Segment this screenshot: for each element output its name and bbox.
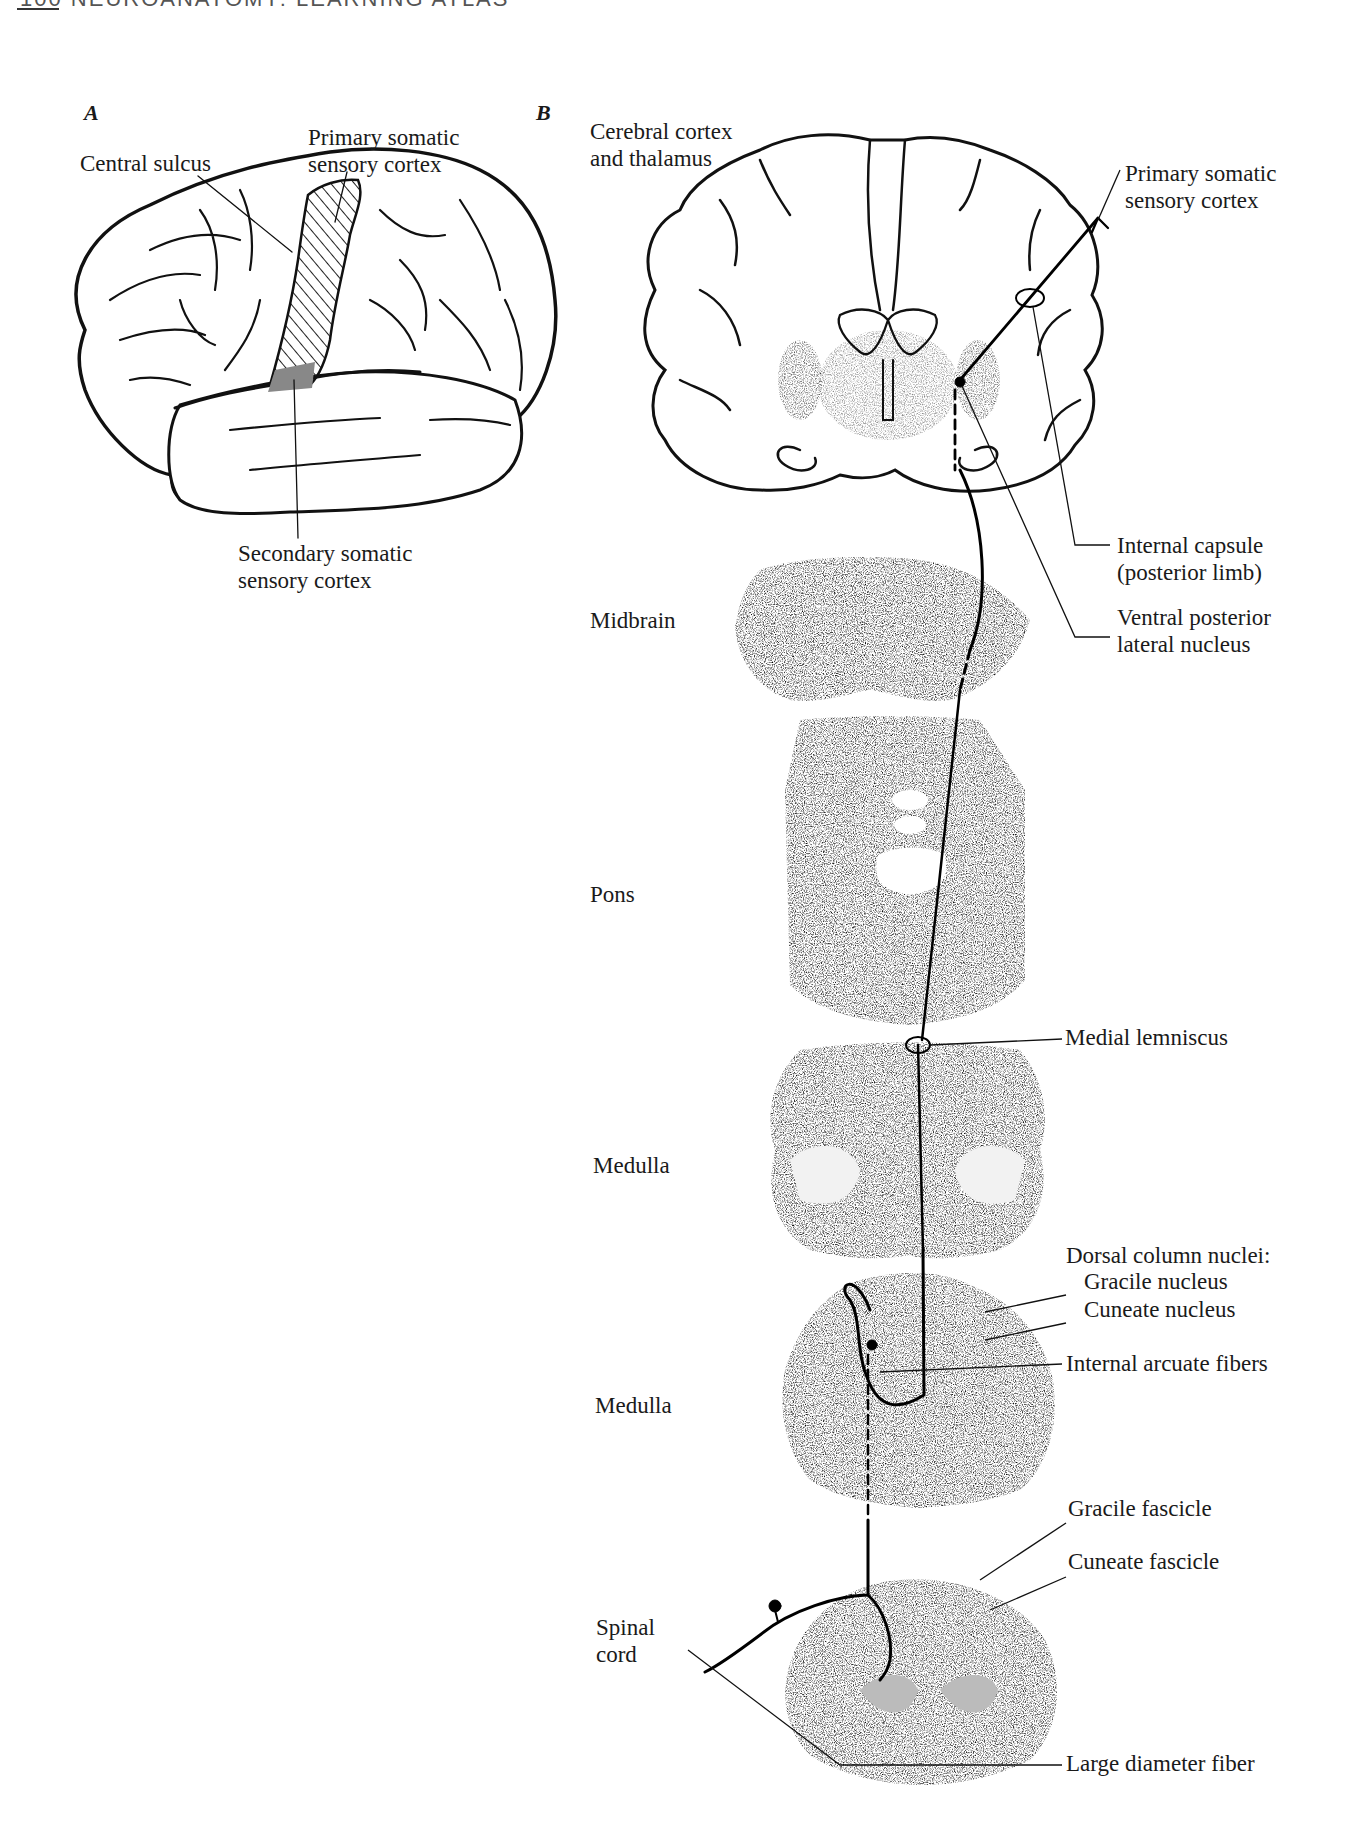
level-cortex-thalamus: Cerebral cortex and thalamus xyxy=(590,118,732,172)
label-large-diameter-fiber: Large diameter fiber xyxy=(1066,1750,1255,1777)
label-secondary-somatic-a: Secondary somatic sensory cortex xyxy=(238,540,412,594)
label-gracile-nucleus: Gracile nucleus xyxy=(1084,1268,1228,1295)
label-primary-somatic-a: Primary somatic sensory cortex xyxy=(308,124,459,178)
label-medial-lemniscus: Medial lemniscus xyxy=(1065,1024,1228,1051)
label-dorsal-column-nuclei: Dorsal column nuclei: xyxy=(1066,1242,1270,1269)
panel-a-letter: A xyxy=(84,100,99,126)
label-primary-somatic-b: Primary somatic sensory cortex xyxy=(1125,160,1276,214)
brainstem-sections xyxy=(735,557,1057,1785)
panel-b-letter: B xyxy=(536,100,551,126)
lateral-brain-drawing xyxy=(76,149,556,538)
label-central-sulcus: Central sulcus xyxy=(80,150,211,177)
midbrain-section xyxy=(735,557,1030,701)
label-vpl-nucleus: Ventral posterior lateral nucleus xyxy=(1117,604,1271,658)
label-cuneate-fascicle: Cuneate fascicle xyxy=(1068,1548,1219,1575)
label-internal-capsule: Internal capsule (posterior limb) xyxy=(1117,532,1263,586)
level-medulla-upper: Medulla xyxy=(593,1152,670,1179)
lower-medulla-section xyxy=(782,1273,1054,1508)
label-gracile-fascicle: Gracile fascicle xyxy=(1068,1495,1212,1522)
level-pons: Pons xyxy=(590,881,635,908)
level-medulla-lower: Medulla xyxy=(595,1392,672,1419)
level-midbrain: Midbrain xyxy=(590,607,676,634)
label-internal-arcuate-fibers: Internal arcuate fibers xyxy=(1066,1350,1268,1377)
level-spinal-cord: Spinal cord xyxy=(596,1614,655,1668)
label-cuneate-nucleus: Cuneate nucleus xyxy=(1084,1296,1235,1323)
